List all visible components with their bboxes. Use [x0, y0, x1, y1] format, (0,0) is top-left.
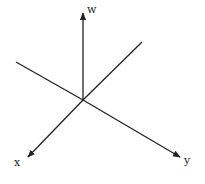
y-axis-line: [83, 100, 180, 157]
x-negative-axis-line: [83, 42, 142, 100]
w-axis-label: w: [87, 4, 96, 15]
y-negative-axis-line: [16, 62, 83, 100]
x-axis-label: x: [14, 157, 20, 168]
axes-diagram: [0, 0, 205, 184]
y-axis-label: y: [184, 155, 190, 166]
x-axis-line: [28, 100, 83, 157]
axes-group: [16, 13, 180, 157]
